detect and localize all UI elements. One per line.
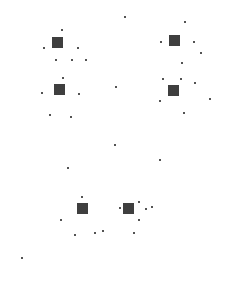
dot bbox=[159, 100, 161, 102]
dot-matrix-cluster bbox=[168, 85, 179, 96]
dot bbox=[62, 77, 64, 79]
dot bbox=[119, 207, 121, 209]
dot bbox=[61, 29, 63, 31]
dot bbox=[55, 59, 57, 61]
dot bbox=[151, 206, 153, 208]
dot-matrix-cluster bbox=[52, 37, 63, 48]
dot bbox=[138, 219, 140, 221]
dot bbox=[94, 232, 96, 234]
dot bbox=[181, 62, 183, 64]
dot bbox=[209, 98, 211, 100]
dot bbox=[49, 114, 51, 116]
dot bbox=[85, 59, 87, 61]
dot bbox=[124, 16, 126, 18]
dot bbox=[193, 41, 195, 43]
dot bbox=[71, 59, 73, 61]
dot bbox=[133, 232, 135, 234]
dot bbox=[159, 159, 161, 161]
dot bbox=[145, 208, 147, 210]
dot bbox=[21, 257, 23, 259]
dot bbox=[194, 82, 196, 84]
dot bbox=[67, 167, 69, 169]
dot bbox=[160, 41, 162, 43]
dot bbox=[138, 201, 140, 203]
dot bbox=[180, 78, 182, 80]
dot bbox=[114, 144, 116, 146]
dot bbox=[102, 230, 104, 232]
dot-matrix-cluster bbox=[123, 203, 134, 214]
dot bbox=[183, 112, 185, 114]
dot-matrix-cluster bbox=[77, 203, 88, 214]
dot bbox=[70, 116, 72, 118]
dot bbox=[184, 21, 186, 23]
dot bbox=[200, 52, 202, 54]
dot-matrix-cluster bbox=[169, 35, 180, 46]
dot bbox=[43, 47, 45, 49]
dot bbox=[162, 78, 164, 80]
dot bbox=[77, 47, 79, 49]
dot bbox=[41, 92, 43, 94]
dot bbox=[60, 219, 62, 221]
dot-matrix-cluster bbox=[54, 84, 65, 95]
dot bbox=[115, 86, 117, 88]
dot bbox=[74, 234, 76, 236]
dot-pattern-canvas bbox=[0, 0, 228, 302]
dot bbox=[81, 196, 83, 198]
dot bbox=[78, 93, 80, 95]
